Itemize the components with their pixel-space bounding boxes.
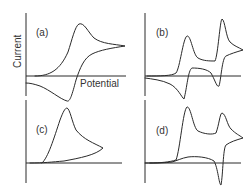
panel-a-label: (a) (36, 27, 48, 38)
x-axis-label: Potential (80, 78, 119, 89)
panel-a: (a) Current Potential (12, 13, 126, 101)
cyclic-voltammetry-figure: (a) Current Potential (b) (c) (d) (0, 0, 251, 195)
panel-c: (c) (26, 100, 122, 183)
panel-c-label: (c) (36, 124, 48, 135)
y-axis-label: Current (12, 34, 23, 68)
panel-b-label: (b) (156, 27, 168, 38)
panel-b: (b) (145, 13, 243, 99)
panel-d-curve (145, 107, 243, 185)
panel-d-label: (d) (156, 125, 168, 136)
panel-c-curve (30, 108, 103, 163)
panel-d: (d) (145, 100, 243, 185)
